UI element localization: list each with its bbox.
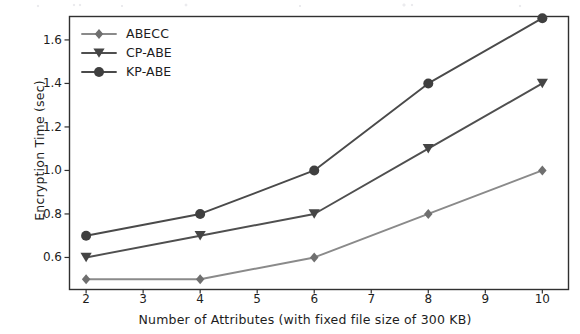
x-tick-label: 9	[481, 292, 489, 306]
data-point-marker-circle	[423, 78, 433, 88]
x-tick-label: 5	[253, 292, 261, 306]
legend-label-abecc: ABECC	[126, 26, 169, 41]
x-tick-label: 8	[424, 292, 432, 306]
x-axis-title: Number of Attributes (with fixed file si…	[0, 312, 580, 327]
chart-canvas	[0, 0, 580, 334]
legend-label-cp-abe: CP-ABE	[126, 45, 172, 60]
y-tick-label: 0.8	[28, 207, 62, 221]
y-tick-label: 1.6	[28, 33, 62, 47]
y-tick-label: 1.2	[28, 120, 62, 134]
encryption-time-line-chart: Encryption Time (sec) Number of Attribut…	[0, 0, 580, 334]
x-tick-label: 4	[196, 292, 204, 306]
data-point-marker-circle	[309, 165, 319, 175]
x-tick-label: 7	[367, 292, 375, 306]
y-tick-label: 1.0	[28, 163, 62, 177]
data-point-marker-circle	[537, 13, 547, 23]
data-point-marker-circle	[81, 231, 91, 241]
y-axis-title: Encryption Time (sec)	[32, 36, 47, 266]
legend-label-kp-abe: KP-ABE	[126, 64, 171, 79]
x-tick-label: 6	[310, 292, 318, 306]
x-tick-label: 10	[535, 292, 550, 306]
y-tick-label: 1.4	[28, 76, 62, 90]
data-point-marker-circle	[195, 209, 205, 219]
x-tick-label: 3	[139, 292, 147, 306]
y-tick-label: 0.6	[28, 250, 62, 264]
x-tick-label: 2	[82, 292, 90, 306]
